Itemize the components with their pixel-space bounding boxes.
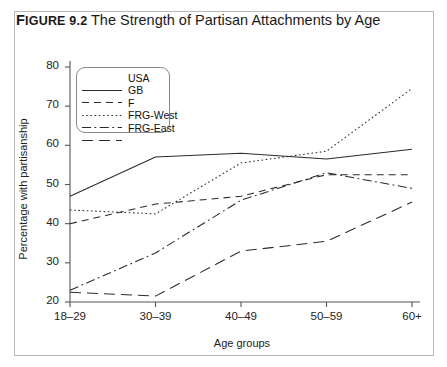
y-tick-label: 20 — [35, 294, 59, 306]
x-axis-title: Age groups — [147, 337, 337, 349]
y-tick-label: 80 — [35, 59, 59, 71]
legend-label: GB — [128, 84, 143, 97]
legend-line-sample — [82, 78, 122, 80]
x-tick-label: 60+ — [377, 310, 447, 322]
y-tick-label: 30 — [35, 255, 59, 267]
x-tick-label: 18–29 — [35, 310, 105, 322]
series-line-frg-east — [70, 202, 412, 296]
y-tick-label: 70 — [35, 98, 59, 110]
y-tick-label: 60 — [35, 137, 59, 149]
legend-label: F — [128, 97, 134, 110]
x-tick-label: 50–59 — [292, 310, 362, 322]
legend-line-sample — [82, 103, 122, 105]
legend-label: USA — [128, 72, 150, 85]
y-tick-label: 50 — [35, 177, 59, 189]
legend-line-sample — [82, 128, 122, 130]
legend-item-f: F — [82, 97, 168, 110]
series-line-gb — [70, 175, 412, 224]
y-axis-title: Percentage with partisanship — [17, 99, 29, 279]
legend-label: FRG-East — [128, 122, 175, 135]
x-tick-label: 40–49 — [206, 310, 276, 322]
legend-item-gb: GB — [82, 84, 168, 97]
legend-line-sample — [82, 90, 122, 92]
y-tick-label: 40 — [35, 216, 59, 228]
series-line-frg-west — [70, 173, 412, 290]
legend-item-usa: USA — [82, 72, 168, 85]
chart-legend: USAGBFFRG-WestFRG-East — [76, 67, 170, 133]
legend-label: FRG-West — [128, 109, 177, 122]
series-line-usa — [70, 149, 412, 196]
legend-item-frg-west: FRG-West — [82, 109, 168, 122]
legend-item-frg-east: FRG-East — [82, 122, 168, 135]
legend-line-sample — [82, 115, 122, 117]
x-tick-label: 30–39 — [121, 310, 191, 322]
